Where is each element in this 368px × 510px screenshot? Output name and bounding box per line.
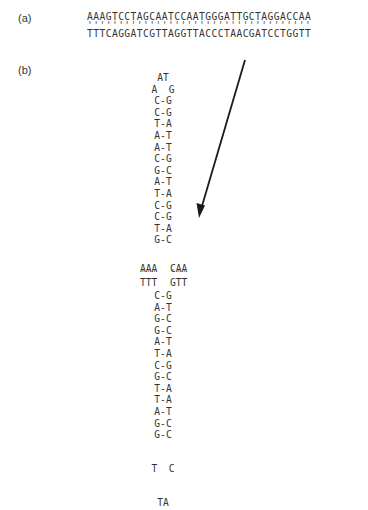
loop-base: TA [128,497,198,509]
